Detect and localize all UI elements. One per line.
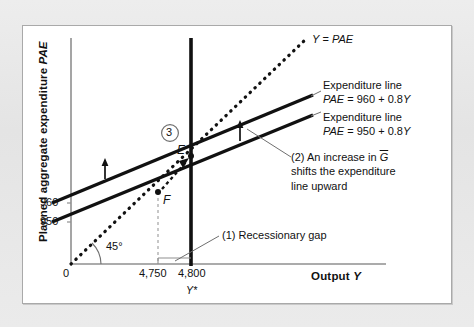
upper-label-title: Expenditure line <box>323 79 402 91</box>
expenditure-line-upper-label: Expenditure linePAE = 960 + 0.8Y <box>323 78 410 106</box>
increase-g-line2: shifts the expenditure <box>291 165 396 177</box>
figure-panel: Planned aggregate expenditure PAE Output… <box>22 25 452 304</box>
point-label-f: F <box>163 193 170 207</box>
x-tick-label-4750: 4,750 <box>139 267 167 280</box>
increase-g-line1-pre: (2) An increase in <box>291 151 380 163</box>
y-tick-label-950: 950 <box>40 215 58 228</box>
angle-label-45: 45° <box>106 240 123 253</box>
lower-label-eq: = 950 + 0.8 <box>344 125 403 137</box>
x-axis-label-italic: Y <box>353 270 361 282</box>
expenditure-line-lower-label: Expenditure linePAE = 950 + 0.8Y <box>323 110 410 138</box>
upper-line-leader <box>311 91 321 96</box>
y-tick-label-960: 960 <box>40 196 58 209</box>
point-f-marker <box>155 189 161 195</box>
origin-label: 0 <box>63 267 69 280</box>
y-axis-label-italic: PAE <box>37 41 49 64</box>
expenditure-line-lower <box>52 115 313 222</box>
x-axis-label-text: Output <box>311 270 353 282</box>
recessionary-gap-leader <box>175 236 219 261</box>
lower-label-pae: PAE <box>323 125 344 137</box>
step-marker-3-label: 3 <box>166 126 172 139</box>
lower-label-y: Y <box>403 125 410 137</box>
g-bar-symbol: G <box>380 151 389 163</box>
upper-label-eq: = 960 + 0.8 <box>344 93 403 105</box>
identity-line-label: Y = PAE <box>312 32 353 46</box>
x-axis-label: Output Y <box>311 270 361 284</box>
increase-g-annotation: (2) An increase in Gshifts the expenditu… <box>291 150 396 193</box>
recessionary-gap-annotation: (1) Recessionary gap <box>222 228 327 242</box>
x-tick-label-4800: 4,800 <box>178 267 206 280</box>
point-e-marker <box>188 153 194 159</box>
upper-label-pae: PAE <box>323 93 344 105</box>
shift-arrow-left <box>102 158 109 179</box>
potential-output-label: Y* <box>186 284 197 296</box>
point-label-e: E <box>177 143 185 157</box>
upper-label-y: Y <box>403 93 410 105</box>
figure-root: Planned aggregate expenditure PAE Output… <box>0 0 474 327</box>
y-axis-label: Planned aggregate expenditure PAE <box>37 41 51 242</box>
increase-g-line3: line upward <box>291 180 347 192</box>
identity-label-pae: PAE <box>332 33 353 45</box>
lower-label-title: Expenditure line <box>323 111 402 123</box>
angle-arc-45 <box>92 243 101 264</box>
identity-label-eq: = <box>319 33 332 45</box>
